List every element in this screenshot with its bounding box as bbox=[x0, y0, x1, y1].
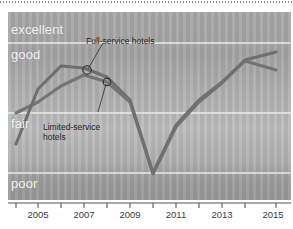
annotation-label-limited-service-line2: hotels bbox=[43, 132, 66, 142]
plot-area: excellent good fair poor Full-service ho… bbox=[8, 12, 291, 200]
y-axis-label-fair: fair bbox=[11, 116, 29, 131]
x-axis-label-2009: 2009 bbox=[119, 209, 140, 220]
x-axis-label-2005: 2005 bbox=[27, 209, 48, 220]
line-chart: excellent good fair poor Full-service ho… bbox=[0, 0, 293, 229]
annotation-label-limited-service-line1: Limited-service bbox=[43, 122, 100, 132]
y-axis-label-poor: poor bbox=[11, 176, 37, 191]
x-axis-label-2015: 2015 bbox=[262, 209, 283, 220]
x-axis-label-2007: 2007 bbox=[73, 209, 94, 220]
x-axis-ticks bbox=[8, 202, 291, 214]
series-line-limited-service bbox=[16, 61, 276, 174]
x-axis-label-2011: 2011 bbox=[166, 209, 186, 220]
annotation-label-full-service: Full-service hotels bbox=[86, 36, 155, 46]
x-axis: 2005 2007 2009 2011 2013 2015 bbox=[8, 200, 291, 229]
x-axis-label-2013: 2013 bbox=[211, 209, 232, 220]
y-axis-label-good: good bbox=[11, 47, 40, 62]
top-dotted-divider bbox=[0, 1, 293, 3]
y-axis-label-excellent: excellent bbox=[11, 22, 63, 37]
